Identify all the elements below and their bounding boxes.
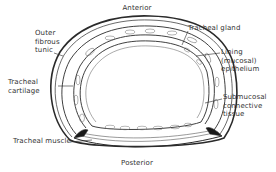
- label-submucosal-connective-tissue: Submucosal connective tissue: [223, 93, 267, 119]
- label-posterior: Posterior: [121, 159, 153, 168]
- lining-epithelium: [80, 41, 209, 130]
- label-tracheal-gland: Tracheal gland: [188, 24, 240, 33]
- trachea-diagram: Anterior Posterior Outer fibrous tunic T…: [0, 0, 276, 172]
- outer-fibrous-tunic: [51, 16, 237, 147]
- label-outer-fibrous-tunic: Outer fibrous tunic: [35, 29, 60, 55]
- label-tracheal-muscle: Tracheal muscle: [13, 137, 71, 146]
- leader-lines: [54, 31, 222, 142]
- label-anterior: Anterior: [122, 4, 151, 13]
- label-tracheal-cartilage: Tracheal cartilage: [8, 78, 40, 95]
- label-lining-epithelium: Lining (mucosal) epithelium: [221, 48, 259, 74]
